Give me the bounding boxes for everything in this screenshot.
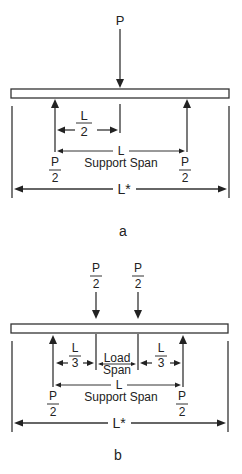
total-length-label: L* — [112, 415, 126, 431]
left-load-arrow-head-icon — [92, 310, 100, 319]
left-support-arrow-head-icon — [51, 99, 59, 108]
left-third-left-arrow-icon — [56, 360, 63, 366]
figure-b-four-point-bending: P 2 P 2 L 3 Load Spa — [11, 261, 228, 463]
half-span-denominator: 2 — [80, 124, 87, 139]
right-third-right-arrow-icon — [174, 360, 181, 366]
left-third-right-arrow-icon — [87, 360, 94, 366]
total-length-right-arrow-icon — [217, 420, 226, 427]
total-length-left-arrow-icon — [14, 186, 23, 193]
right-third-left-arrow-icon — [140, 360, 147, 366]
support-span-right-arrow-icon — [175, 383, 181, 388]
figure-b-caption: b — [114, 447, 122, 463]
support-span-label: Support Span — [84, 156, 157, 170]
specimen-beam — [11, 89, 229, 98]
support-span-right-arrow-icon — [179, 149, 185, 154]
right-load-denominator: 2 — [135, 277, 142, 291]
left-third-denominator: 3 — [72, 356, 79, 370]
left-load-denominator: 2 — [93, 277, 100, 291]
left-reaction-denominator: 2 — [50, 405, 57, 419]
right-reaction-numerator: P — [178, 389, 186, 403]
left-load-numerator: P — [92, 261, 100, 275]
half-span-numerator: L — [80, 108, 87, 123]
half-span-left-arrow-icon — [57, 127, 65, 134]
right-load-arrow-head-icon — [134, 310, 142, 319]
support-span-left-arrow-icon — [55, 383, 61, 388]
right-support-arrow-head-icon — [179, 335, 187, 344]
load-span-label-line2: Span — [103, 363, 131, 377]
specimen-beam — [11, 324, 228, 333]
right-reaction-numerator: P — [181, 155, 189, 169]
half-span-right-arrow-icon — [110, 127, 118, 134]
bending-test-diagram: P L 2 L Support Span P 2 — [0, 0, 242, 474]
figure-a-three-point-bending: P L 2 L Support Span P 2 — [11, 13, 229, 239]
load-arrow-head-icon — [116, 79, 124, 88]
left-reaction-denominator: 2 — [52, 171, 59, 185]
right-third-denominator: 3 — [158, 356, 165, 370]
load-label: P — [116, 13, 125, 28]
right-reaction-denominator: 2 — [182, 171, 189, 185]
support-span-left-arrow-icon — [57, 149, 63, 154]
load-span-right-arrow-icon — [131, 362, 136, 366]
total-length-left-arrow-icon — [14, 420, 23, 427]
right-support-arrow-head-icon — [183, 99, 191, 108]
right-third-numerator: L — [158, 341, 165, 355]
right-reaction-denominator: 2 — [179, 405, 186, 419]
left-third-numerator: L — [72, 341, 79, 355]
figure-a-caption: a — [119, 223, 127, 239]
total-length-label: L* — [117, 181, 131, 197]
left-reaction-numerator: P — [49, 389, 57, 403]
right-load-numerator: P — [134, 261, 142, 275]
left-reaction-numerator: P — [51, 155, 59, 169]
left-support-arrow-head-icon — [49, 335, 57, 344]
support-span-label: Support Span — [84, 390, 157, 404]
total-length-right-arrow-icon — [218, 186, 227, 193]
